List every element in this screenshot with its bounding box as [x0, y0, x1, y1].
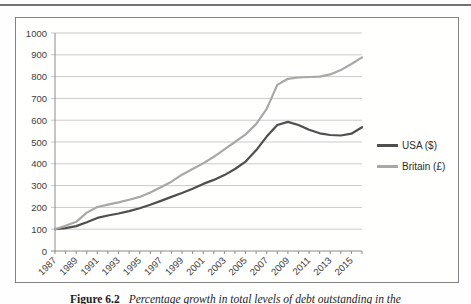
- svg-text:500: 500: [31, 137, 47, 148]
- figure-caption-text: Percentage growth in total levels of deb…: [129, 293, 401, 304]
- svg-text:300: 300: [31, 180, 47, 191]
- svg-text:2005: 2005: [226, 255, 249, 278]
- legend-label-usa: USA ($): [402, 140, 437, 151]
- britain-line-swatch: [377, 165, 398, 168]
- figure-caption: Figure 6.2Percentage growth in total lev…: [0, 289, 471, 304]
- svg-text:2007: 2007: [247, 255, 270, 278]
- svg-text:700: 700: [31, 93, 47, 104]
- usa-line-swatch: [377, 144, 398, 147]
- legend-item-britain: Britain (£): [377, 156, 445, 177]
- svg-text:100: 100: [31, 224, 47, 235]
- svg-text:1999: 1999: [163, 255, 186, 278]
- book-page: 0100200300400500600700800900100019871989…: [0, 0, 471, 304]
- svg-text:1989: 1989: [57, 255, 80, 278]
- svg-text:2003: 2003: [205, 255, 228, 278]
- legend-label-britain: Britain (£): [402, 161, 445, 172]
- svg-text:400: 400: [31, 158, 47, 169]
- svg-text:1991: 1991: [78, 255, 101, 278]
- svg-text:1995: 1995: [120, 255, 143, 278]
- svg-text:800: 800: [31, 71, 47, 82]
- figure-label: Figure 6.2: [70, 293, 120, 304]
- svg-text:200: 200: [31, 202, 47, 213]
- svg-text:0: 0: [42, 246, 47, 257]
- svg-text:900: 900: [31, 49, 47, 60]
- legend-item-usa: USA ($): [377, 135, 445, 156]
- svg-text:1997: 1997: [142, 255, 165, 278]
- svg-text:2011: 2011: [290, 255, 312, 277]
- svg-text:1987: 1987: [36, 255, 59, 278]
- svg-text:1000: 1000: [26, 28, 47, 39]
- svg-text:1993: 1993: [99, 255, 122, 278]
- svg-text:2009: 2009: [269, 255, 292, 278]
- svg-text:2013: 2013: [311, 255, 334, 278]
- svg-text:2015: 2015: [332, 255, 355, 278]
- chart-legend: USA ($) Britain (£): [377, 135, 445, 177]
- svg-text:600: 600: [31, 115, 47, 126]
- svg-text:2001: 2001: [184, 255, 207, 278]
